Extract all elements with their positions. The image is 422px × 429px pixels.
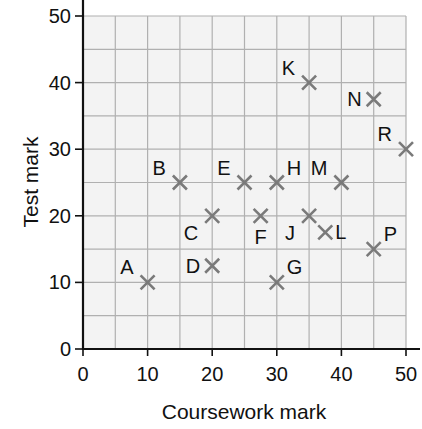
point-label: B <box>153 157 166 179</box>
x-tick-label: 50 <box>395 363 417 385</box>
point-label: P <box>384 223 397 245</box>
point-label: J <box>285 222 295 244</box>
y-tick-label: 0 <box>60 338 71 360</box>
x-axis-ticks: 01020304050 <box>77 349 417 385</box>
y-tick-label: 20 <box>49 205 71 227</box>
scatter-chart: 01020304050 01020304050 Coursework mark … <box>0 0 422 429</box>
point-label: M <box>311 157 328 179</box>
y-tick-label: 30 <box>49 138 71 160</box>
point-label: N <box>347 88 361 110</box>
x-tick-label: 40 <box>330 363 352 385</box>
y-tick-label: 50 <box>49 5 71 27</box>
x-axis-title: Coursework mark <box>162 400 327 423</box>
point-label: F <box>255 226 267 248</box>
point-label: A <box>120 256 134 278</box>
point-label: D <box>186 255 200 277</box>
y-tick-label: 10 <box>49 271 71 293</box>
point-label: R <box>378 123 392 145</box>
point-label: L <box>335 221 346 243</box>
y-axis-title: Test mark <box>19 136 42 228</box>
point-label: C <box>184 222 198 244</box>
x-tick-label: 10 <box>136 363 158 385</box>
point-label: K <box>282 57 296 79</box>
x-tick-label: 30 <box>266 363 288 385</box>
y-tick-label: 40 <box>49 72 71 94</box>
point-label: E <box>217 157 230 179</box>
x-tick-label: 0 <box>77 363 88 385</box>
point-label: H <box>287 157 301 179</box>
y-axis-ticks: 01020304050 <box>49 5 83 360</box>
point-label: G <box>287 256 303 278</box>
x-tick-label: 20 <box>201 363 223 385</box>
